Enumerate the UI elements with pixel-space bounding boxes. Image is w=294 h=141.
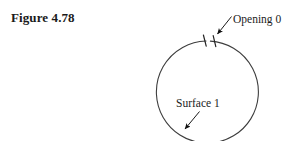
figure-page: Figure 4.78 Opening 0 Surface 1 <box>0 0 294 141</box>
surface-leader-arrow <box>185 112 200 130</box>
surface-label: Surface 1 <box>176 97 220 109</box>
opening-leader-arrow <box>218 17 232 35</box>
opening-label: Opening 0 <box>233 13 281 26</box>
circle-outline <box>156 41 258 141</box>
opening-tick-marks <box>203 35 215 47</box>
diagram-canvas: Opening 0 Surface 1 <box>0 0 294 141</box>
